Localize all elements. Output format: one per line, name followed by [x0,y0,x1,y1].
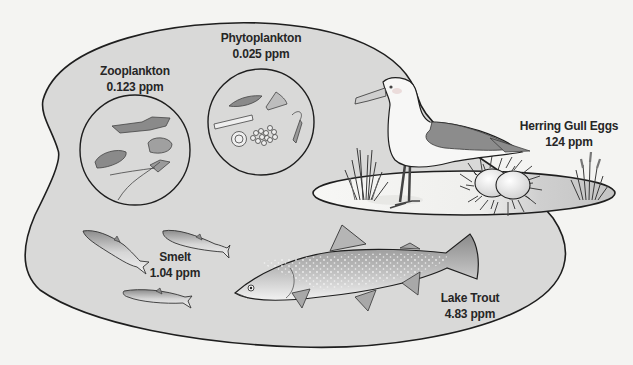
lake-trout-name: Lake Trout [420,290,520,306]
eggs-icon [475,169,530,199]
zooplankton-name: Zooplankton [80,63,190,79]
phytoplankton-concentration: 0.025 ppm [200,46,322,62]
herring-gull-eggs-concentration: 124 ppm [505,134,633,150]
zooplankton-circle [80,95,190,205]
zooplankton-concentration: 0.123 ppm [80,79,190,95]
label-lake-trout: Lake Trout 4.83 ppm [420,290,520,322]
label-smelt: Smelt 1.04 ppm [140,249,210,281]
label-zooplankton: Zooplankton 0.123 ppm [80,63,190,95]
label-phytoplankton: Phytoplankton 0.025 ppm [200,30,322,62]
herring-gull-eggs-name: Herring Gull Eggs [505,118,633,134]
phytoplankton-name: Phytoplankton [200,30,322,46]
lake-trout-concentration: 4.83 ppm [420,306,520,322]
smelt-concentration: 1.04 ppm [140,265,210,281]
smelt-name: Smelt [140,249,210,265]
label-herring-gull-eggs: Herring Gull Eggs 124 ppm [505,118,633,150]
